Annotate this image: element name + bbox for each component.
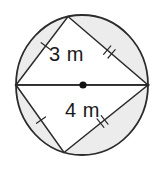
upper-chord-label: 3 m <box>49 43 84 65</box>
lower-chord-label: 4 m <box>65 99 100 121</box>
circle-diagram: 3 m 4 m <box>0 0 163 171</box>
center-dot <box>79 81 86 88</box>
geometry-figure: 3 m 4 m <box>0 0 163 171</box>
